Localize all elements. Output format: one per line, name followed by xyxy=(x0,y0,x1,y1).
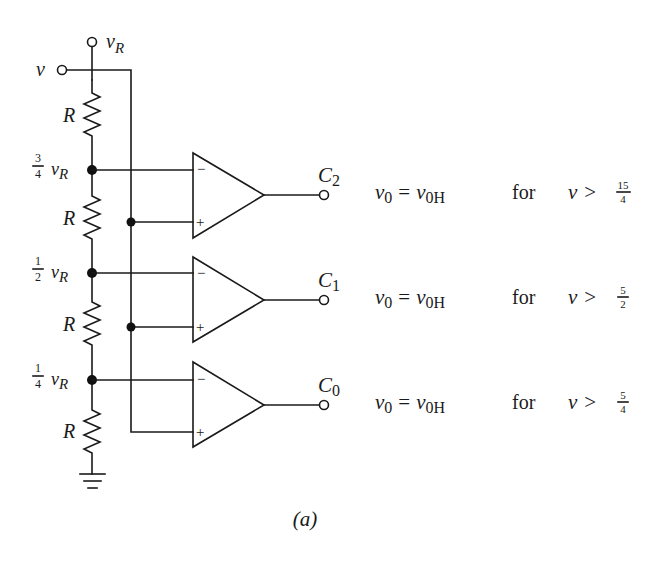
svg-text:v0=v0H: v0=v0H xyxy=(375,180,446,206)
threshold-denominator: 4 xyxy=(620,403,626,415)
svg-text:v0=v0H: v0=v0H xyxy=(375,285,446,311)
lhs-subscript: 0 xyxy=(384,399,392,416)
vr-symbol: v xyxy=(106,30,115,52)
output-subscript: 0 xyxy=(332,382,340,399)
output-label: C xyxy=(318,268,333,292)
reference-input-terminal: vR xyxy=(88,30,125,80)
comparator-c0: − + C0 xyxy=(193,362,340,447)
svg-text:vR: vR xyxy=(51,159,68,182)
inverting-input-sign: − xyxy=(197,161,205,177)
threshold-numerator: 5 xyxy=(620,389,626,401)
tap-subscript: R xyxy=(58,166,68,182)
svg-text:v>: v> xyxy=(568,180,596,204)
fraction-denominator: 4 xyxy=(35,377,41,391)
inverting-input-sign: − xyxy=(197,371,205,387)
lhs-subscript: 0 xyxy=(384,294,392,311)
noninverting-input-sign: + xyxy=(196,319,204,335)
resistor-label: R xyxy=(62,313,75,335)
condition-c2: v0=v0H for v> 15 4 xyxy=(375,179,630,206)
threshold-denominator: 4 xyxy=(620,193,626,205)
output-label: C xyxy=(318,163,333,187)
output-subscript: 2 xyxy=(332,172,340,189)
rhs-subscript: 0H xyxy=(426,294,446,311)
junction-dot xyxy=(127,323,136,332)
threshold-numerator: 5 xyxy=(620,284,626,296)
figure-caption-text: (a) xyxy=(293,507,318,531)
inverting-input-sign: − xyxy=(197,265,205,281)
tap-symbol: v xyxy=(51,159,59,179)
ground-icon xyxy=(80,474,105,488)
var-symbol: v xyxy=(568,285,578,309)
resistor-label: R xyxy=(62,420,75,442)
comparator-ladder-diagram: vR v R R R R 3 4 vR xyxy=(0,0,657,561)
svg-text:C2: C2 xyxy=(318,163,340,189)
fraction-numerator: 3 xyxy=(35,151,41,165)
threshold-denominator: 2 xyxy=(620,298,626,310)
svg-text:vR: vR xyxy=(51,262,68,285)
resistor-label: R xyxy=(62,207,75,229)
svg-text:C0: C0 xyxy=(318,373,340,399)
svg-text:v>: v> xyxy=(568,390,596,414)
tap-node-quarter: 1 4 vR xyxy=(33,361,193,392)
tap-subscript: R xyxy=(58,376,68,392)
svg-text:vR: vR xyxy=(106,30,124,56)
noninverting-input-sign: + xyxy=(196,214,204,230)
output-terminal xyxy=(320,401,329,410)
fraction-denominator: 4 xyxy=(35,167,41,181)
output-label: C xyxy=(318,373,333,397)
for-word: for xyxy=(512,286,536,308)
threshold-numerator: 15 xyxy=(618,179,630,191)
comparator-c2: − + C2 xyxy=(193,153,340,238)
var-symbol: v xyxy=(568,180,578,204)
condition-c1: v0=v0H for v> 5 2 xyxy=(375,284,628,311)
condition-c0: v0=v0H for v> 5 4 xyxy=(375,389,628,416)
v-input-label: v xyxy=(36,58,45,80)
tap-node-half: 1 2 vR xyxy=(33,254,193,285)
junction-dot xyxy=(127,218,136,227)
fraction-denominator: 2 xyxy=(35,270,41,284)
tap-node-three-quarter: 3 4 vR xyxy=(33,151,193,182)
fraction-numerator: 1 xyxy=(35,254,41,268)
greater-than-sign: > xyxy=(584,285,596,309)
svg-text:v0=v0H: v0=v0H xyxy=(375,390,446,416)
equals-sign: = xyxy=(398,180,410,204)
for-word: for xyxy=(512,181,536,203)
equals-sign: = xyxy=(398,285,410,309)
greater-than-sign: > xyxy=(584,180,596,204)
lhs-subscript: 0 xyxy=(384,189,392,206)
vr-subscript: R xyxy=(114,40,124,56)
svg-text:C1: C1 xyxy=(318,268,340,294)
var-symbol: v xyxy=(568,390,578,414)
noninverting-input-sign: + xyxy=(196,424,204,440)
rhs-subscript: 0H xyxy=(426,189,446,206)
output-subscript: 1 xyxy=(332,277,340,294)
greater-than-sign: > xyxy=(584,390,596,414)
resistor-label: R xyxy=(62,104,75,126)
tap-symbol: v xyxy=(51,369,59,389)
svg-text:vR: vR xyxy=(51,369,68,392)
tap-symbol: v xyxy=(51,262,59,282)
for-word: for xyxy=(512,391,536,413)
equals-sign: = xyxy=(398,390,410,414)
rhs-subscript: 0H xyxy=(426,399,446,416)
output-terminal xyxy=(320,296,329,305)
fraction-numerator: 1 xyxy=(35,361,41,375)
output-terminal xyxy=(320,191,329,200)
svg-text:v>: v> xyxy=(568,285,596,309)
comparator-c1: − + C1 xyxy=(193,257,340,342)
tap-subscript: R xyxy=(58,269,68,285)
